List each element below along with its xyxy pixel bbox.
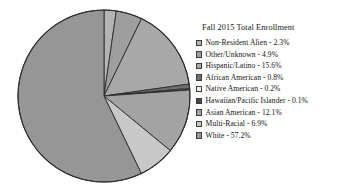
legend-item-label: Asian American - 12.1%	[206, 107, 282, 119]
chart-title: Fall 2015 Total Enrollment	[202, 22, 344, 33]
legend-item-label: Multi-Racial - 6.9%	[206, 118, 268, 130]
legend-item[interactable]: Asian American - 12.1%	[196, 107, 344, 119]
legend-swatch-icon	[196, 86, 202, 92]
legend-item[interactable]: Non-Resident Alien - 2.3%	[196, 37, 344, 49]
pie-slice-group	[18, 10, 190, 182]
legend-item-label: African American - 0.8%	[206, 72, 284, 84]
legend-item-label: Non-Resident Alien - 2.3%	[206, 37, 290, 49]
legend: Fall 2015 Total Enrollment Non-Resident …	[196, 22, 344, 141]
legend-swatch-icon	[196, 132, 202, 138]
legend-swatch-icon	[196, 98, 202, 104]
legend-item[interactable]: Hispanic/Latino - 15.6%	[196, 60, 344, 72]
legend-item[interactable]: Other/Unknown - 4.9%	[196, 49, 344, 61]
legend-swatch-icon	[196, 40, 202, 46]
pie-chart-figure: Fall 2015 Total Enrollment Non-Resident …	[0, 0, 346, 191]
legend-swatch-icon	[196, 63, 202, 69]
legend-item-label: Native American - 0.2%	[206, 83, 281, 95]
pie-plot-area	[14, 6, 194, 186]
legend-swatch-icon	[196, 121, 202, 127]
legend-list: Non-Resident Alien - 2.3%Other/Unknown -…	[196, 37, 344, 141]
legend-item[interactable]: Multi-Racial - 6.9%	[196, 118, 344, 130]
legend-swatch-icon	[196, 51, 202, 57]
legend-swatch-icon	[196, 109, 202, 115]
legend-item[interactable]: White - 57.2%	[196, 130, 344, 142]
legend-item-label: White - 57.2%	[206, 130, 251, 142]
legend-item-label: Hawaiian/Pacific Islander - 0.1%	[206, 95, 308, 107]
pie-svg	[14, 6, 194, 186]
legend-item-label: Hispanic/Latino - 15.6%	[206, 60, 282, 72]
legend-item[interactable]: Hawaiian/Pacific Islander - 0.1%	[196, 95, 344, 107]
legend-item[interactable]: Native American - 0.2%	[196, 83, 344, 95]
legend-item-label: Other/Unknown - 4.9%	[206, 49, 279, 61]
legend-swatch-icon	[196, 74, 202, 80]
legend-item[interactable]: African American - 0.8%	[196, 72, 344, 84]
